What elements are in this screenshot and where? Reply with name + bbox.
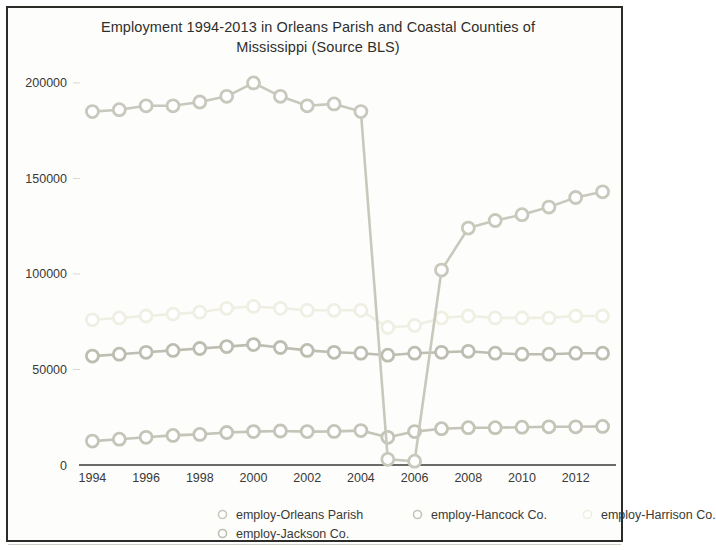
x-tick-label: 2006 [401, 471, 429, 485]
legend-label: employ-Harrison Co. [601, 508, 716, 522]
data-point-marker [489, 312, 501, 324]
data-point-marker [570, 347, 582, 359]
series-employ-jackson-co- [86, 339, 608, 363]
data-point-marker [570, 310, 582, 322]
axis-lines [73, 83, 616, 465]
data-point-marker [248, 426, 260, 438]
data-point-marker [516, 421, 528, 433]
data-point-marker [274, 342, 286, 354]
data-point-marker [516, 348, 528, 360]
data-point-marker [301, 100, 313, 112]
data-point-marker [597, 420, 609, 432]
legend-item-employ-orleans-parish[interactable]: employ-Orleans Parish [216, 508, 363, 522]
data-point-marker [86, 435, 98, 447]
data-point-marker [86, 106, 98, 118]
data-point-marker [462, 345, 474, 357]
data-point-marker [382, 453, 394, 465]
data-point-marker [355, 106, 367, 118]
y-tick-label: 50000 [32, 363, 67, 377]
x-tick-label: 2004 [347, 471, 375, 485]
data-point-marker [140, 310, 152, 322]
data-point-marker [543, 421, 555, 433]
data-point-marker [328, 98, 340, 110]
data-point-marker [462, 422, 474, 434]
x-tick-label: 1994 [79, 471, 107, 485]
data-point-marker [301, 344, 313, 356]
data-point-marker [113, 433, 125, 445]
plot-area: 050000100000150000200000 199419961998200… [8, 8, 621, 508]
legend-marker-circle-icon [411, 508, 424, 521]
series-line [92, 83, 602, 461]
data-point-marker [194, 306, 206, 318]
data-point-marker [409, 320, 421, 332]
x-tick-label: 2010 [508, 471, 536, 485]
legend-marker-circle-icon [581, 508, 594, 521]
data-point-marker [194, 96, 206, 108]
legend-row: employ-Jackson Co. [112, 524, 621, 543]
data-point-marker [167, 344, 179, 356]
data-point-marker [301, 426, 313, 438]
data-point-marker [355, 425, 367, 437]
data-point-marker [140, 431, 152, 443]
data-point-marker [274, 90, 286, 102]
data-point-marker [489, 215, 501, 227]
data-point-marker [489, 422, 501, 434]
data-point-marker [301, 304, 313, 316]
x-tick-label: 2012 [562, 471, 590, 485]
data-point-marker [194, 343, 206, 355]
legend-item-employ-jackson-co-[interactable]: employ-Jackson Co. [216, 527, 349, 541]
data-point-marker [436, 264, 448, 276]
data-point-marker [597, 310, 609, 322]
data-point-marker [328, 304, 340, 316]
data-point-marker [409, 455, 421, 467]
data-point-marker [328, 425, 340, 437]
series-employ-harrison-co- [86, 300, 608, 333]
data-point-marker [221, 341, 233, 353]
data-point-marker [113, 348, 125, 360]
x-tick-label: 1998 [186, 471, 214, 485]
chart-legend: employ-Orleans Parishemploy-Hancock Co.e… [8, 505, 621, 543]
data-point-marker [167, 308, 179, 320]
x-tick-label: 2008 [454, 471, 482, 485]
data-point-marker [516, 209, 528, 221]
data-point-marker [248, 300, 260, 312]
data-point-marker [140, 346, 152, 358]
data-point-marker [570, 421, 582, 433]
legend-item-employ-harrison-co-[interactable]: employ-Harrison Co. [581, 508, 716, 522]
y-tick-label: 150000 [25, 172, 67, 186]
x-tick-label: 1996 [132, 471, 160, 485]
data-point-marker [516, 312, 528, 324]
chart-frame: Employment 1994-2013 in Orleans Parish a… [6, 6, 623, 542]
data-point-marker [543, 348, 555, 360]
data-point-marker [194, 428, 206, 440]
legend-marker-circle-icon [216, 527, 229, 540]
data-point-marker [436, 423, 448, 435]
legend-label: employ-Jackson Co. [236, 527, 349, 541]
series-employ-hancock-co- [86, 420, 608, 447]
data-point-marker [221, 302, 233, 314]
y-tick-label: 100000 [25, 267, 67, 281]
data-point-marker [409, 347, 421, 359]
y-tick-label: 200000 [25, 76, 67, 90]
y-axis-tick-labels: 050000100000150000200000 [25, 76, 67, 472]
legend-separator [8, 544, 621, 545]
data-point-marker [248, 339, 260, 351]
legend-marker-circle-icon [216, 508, 229, 521]
data-point-marker [167, 429, 179, 441]
x-tick-label: 2000 [240, 471, 268, 485]
data-point-marker [140, 100, 152, 112]
y-tick-label: 0 [60, 459, 67, 473]
x-axis-tick-labels: 1994199619982000200220042006200820102012 [79, 471, 590, 485]
data-point-marker [382, 322, 394, 334]
data-point-marker [113, 104, 125, 116]
data-point-marker [543, 201, 555, 213]
data-point-marker [248, 77, 260, 89]
data-point-marker [86, 314, 98, 326]
legend-item-employ-hancock-co-[interactable]: employ-Hancock Co. [411, 508, 547, 522]
data-point-marker [221, 427, 233, 439]
data-point-marker [355, 347, 367, 359]
data-point-marker [86, 350, 98, 362]
x-tick-label: 2002 [293, 471, 321, 485]
data-point-marker [597, 347, 609, 359]
data-point-marker [570, 192, 582, 204]
